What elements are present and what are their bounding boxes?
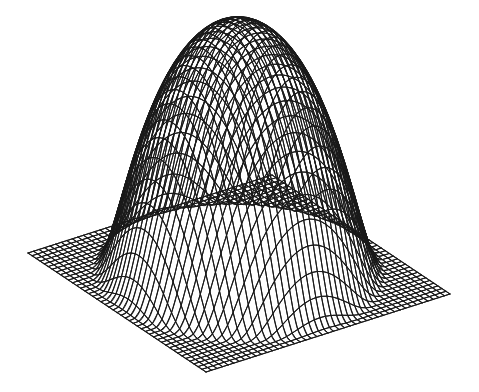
surface-plot-figure [0,0,479,392]
wireframe-surface-svg [0,0,479,392]
